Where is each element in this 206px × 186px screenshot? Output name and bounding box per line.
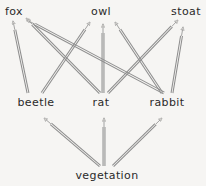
node-label-rabbit: rabbit bbox=[150, 97, 185, 109]
node-label-rat: rat bbox=[93, 97, 110, 109]
arrow-rabbit-to-owl bbox=[115, 22, 120, 30]
food-web-arrows-layer bbox=[0, 0, 206, 186]
arrow-vegetation-to-rabbit bbox=[156, 118, 162, 124]
arrow-rat-to-stoat bbox=[172, 20, 178, 26]
node-label-owl: owl bbox=[91, 6, 111, 18]
node-label-stoat: stoat bbox=[171, 6, 201, 18]
node-label-fox: fox bbox=[5, 6, 23, 18]
arrow-vegetation-to-beetle bbox=[44, 118, 51, 124]
food-web-diagram: fox owl stoat beetle rat rabbit vegetati… bbox=[0, 0, 206, 186]
arrow-beetle-to-fox bbox=[13, 21, 15, 30]
arrow-rabbit-to-stoat bbox=[182, 27, 183, 36]
node-label-beetle: beetle bbox=[17, 97, 54, 109]
node-label-vegetation: vegetation bbox=[75, 170, 138, 182]
arrow-group bbox=[13, 18, 183, 167]
arrow-beetle-to-owl bbox=[85, 22, 90, 29]
